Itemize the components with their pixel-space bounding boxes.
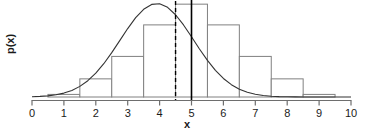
x-axis-tick-label: 3 (125, 107, 131, 119)
x-axis-tick-label: 8 (284, 107, 290, 119)
histogram-bar (112, 56, 144, 97)
x-axis-tick-label: 0 (29, 107, 35, 119)
x-axis-tick-label: 7 (252, 107, 258, 119)
x-axis-tick-label: 2 (93, 107, 99, 119)
y-axis-title: p(x) (4, 34, 16, 55)
x-axis-ticks (32, 101, 351, 106)
x-axis-title: x (184, 118, 191, 130)
x-axis-tick-label: 6 (220, 107, 226, 119)
x-axis-tick-labels: 012345678910 (29, 107, 357, 119)
x-axis-tick-label: 9 (316, 107, 322, 119)
histogram-bar (271, 79, 303, 97)
x-axis-tick-label: 10 (345, 107, 357, 119)
x-axis-tick-label: 1 (61, 107, 67, 119)
histogram-bar (80, 79, 112, 97)
histogram-density-figure: 012345678910 x p(x) (0, 0, 373, 132)
x-axis (32, 101, 352, 106)
chart-canvas: 012345678910 x p(x) (0, 0, 373, 132)
histogram-bar (144, 25, 176, 97)
x-axis-tick-label: 4 (157, 107, 163, 119)
